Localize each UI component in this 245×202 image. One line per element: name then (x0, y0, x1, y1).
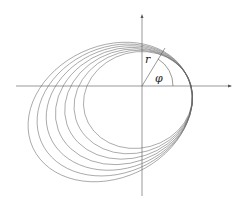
ellipse-curve (5, 16, 215, 202)
x-axis-arrow-icon (228, 85, 232, 88)
angle-label: φ (155, 72, 163, 85)
ellipse-family (5, 16, 215, 202)
ellipse-curve (27, 25, 211, 192)
y-axis-arrow-icon (141, 14, 144, 18)
ellipse-curve (61, 36, 205, 168)
ellipse-curve (16, 20, 213, 199)
radius-label: r (145, 53, 151, 66)
polar-diagram: r φ (0, 0, 245, 202)
